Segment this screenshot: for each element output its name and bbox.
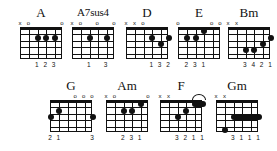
muted-string-marker: x <box>157 93 164 100</box>
open-muted-markers: ooo <box>178 20 220 27</box>
finger-number: 1 <box>266 60 274 69</box>
finger-number: 2 <box>182 60 190 69</box>
fret-line <box>51 114 91 115</box>
open-string-marker: o <box>175 20 182 27</box>
finger-dot <box>104 35 110 41</box>
fret-line <box>73 41 113 42</box>
finger-number: 1 <box>147 60 155 69</box>
chord-diagram-gm: Gmxx3111 <box>216 79 268 142</box>
open-muted-markers: xoo <box>20 20 62 27</box>
chord-diagram-bm: Bmxx3421 <box>228 6 277 69</box>
chord-diagram-a: Axoo123 <box>20 6 72 69</box>
barre-indicator <box>192 101 206 107</box>
open-string-marker: o <box>111 93 118 100</box>
chord-name: Am <box>106 79 148 92</box>
nut <box>50 100 92 103</box>
fret-line <box>21 41 61 42</box>
muted-string-marker: x <box>69 20 76 27</box>
fret-line <box>229 47 269 48</box>
chord-name: Bm <box>228 6 270 19</box>
finger-dot <box>121 108 127 114</box>
chord-name: A7sus4 <box>72 6 114 19</box>
finger-dot <box>222 127 228 133</box>
finger-number: 1 <box>54 133 62 142</box>
fret-line <box>161 114 201 115</box>
muted-string-marker: x <box>123 20 130 27</box>
fretboard-grid <box>216 100 258 132</box>
open-string-marker: o <box>94 20 101 27</box>
open-string-marker: o <box>72 93 79 100</box>
open-string-marker: o <box>25 20 32 27</box>
fret-line <box>229 54 269 55</box>
finger-dot <box>35 35 41 41</box>
finger-dot <box>43 35 49 41</box>
finger-number: 1 <box>199 60 207 69</box>
open-string-marker: o <box>208 20 215 27</box>
open-string-marker: o <box>77 20 84 27</box>
open-string-marker: o <box>59 20 66 27</box>
finger-number: 3 <box>50 60 58 69</box>
fret-line <box>217 120 257 121</box>
finger-number: 3 <box>229 133 237 142</box>
fret-line <box>127 54 167 55</box>
finger-numbers: 3211 <box>160 133 202 142</box>
finger-number: 3 <box>241 60 249 69</box>
chord-diagram-d: Dxxo132 <box>126 6 178 69</box>
fretboard-grid <box>72 27 114 59</box>
fret-line <box>161 107 201 108</box>
open-string-marker: o <box>89 93 96 100</box>
finger-number: 3 <box>156 60 164 69</box>
finger-number: 2 <box>258 60 266 69</box>
finger-numbers: 231 <box>178 60 220 69</box>
finger-dot <box>149 35 155 41</box>
finger-numbers: 132 <box>126 60 168 69</box>
fret-line <box>229 34 269 35</box>
chord-chart-sheet: Axoo123A7sus4xooo13Dxxo132Eooo231Bmxx342… <box>0 0 277 151</box>
fretboard-grid <box>126 27 168 59</box>
finger-number: 2 <box>181 133 189 142</box>
open-string-marker: o <box>80 93 87 100</box>
open-string-marker: o <box>145 93 152 100</box>
finger-dot <box>251 47 257 53</box>
finger-number: 2 <box>164 60 172 69</box>
finger-number: 2 <box>46 133 54 142</box>
finger-dot <box>87 35 93 41</box>
fret-line <box>73 54 113 55</box>
muted-string-marker: x <box>221 93 228 100</box>
finger-number: 1 <box>246 133 254 142</box>
finger-number: 1 <box>237 133 245 142</box>
fret-line <box>21 47 61 48</box>
finger-number: 3 <box>127 133 135 142</box>
chord-diagram-f: Fxx3211 <box>160 79 212 142</box>
fret-line <box>21 54 61 55</box>
muted-string-marker: x <box>233 20 240 27</box>
finger-numbers: 3111 <box>216 133 258 142</box>
open-string-marker: o <box>217 20 224 27</box>
chord-diagram-e: Eooo231 <box>178 6 230 69</box>
chord-name: F <box>160 79 202 92</box>
finger-number: 3 <box>173 133 181 142</box>
finger-dot <box>90 114 96 120</box>
finger-dot <box>48 114 54 120</box>
fretboard-grid <box>160 100 202 132</box>
fret-line <box>107 120 147 121</box>
fret-line <box>179 41 219 42</box>
muted-string-marker: x <box>17 20 24 27</box>
muted-string-marker: x <box>131 20 138 27</box>
finger-number: 1 <box>33 60 41 69</box>
finger-number: 4 <box>249 60 257 69</box>
finger-numbers: 231 <box>106 133 148 142</box>
fret-line <box>51 120 91 121</box>
finger-numbers: 213 <box>50 133 92 142</box>
chord-name: G <box>50 79 92 92</box>
chord-diagram-am: Amxoo231 <box>106 79 158 142</box>
chord-name: A <box>20 6 62 19</box>
finger-number: 1 <box>254 133 262 142</box>
finger-number: 2 <box>119 133 127 142</box>
nut <box>72 27 114 30</box>
chord-name: E <box>178 6 220 19</box>
fretboard-grid <box>228 27 270 59</box>
open-muted-markers: ooo <box>50 93 92 100</box>
open-string-marker: o <box>111 20 118 27</box>
nut <box>216 100 258 103</box>
